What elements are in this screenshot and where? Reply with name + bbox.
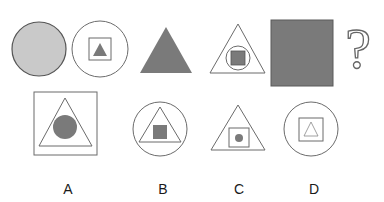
- dark-triangle-shape: [140, 27, 192, 73]
- dark-square-shape: [271, 20, 333, 86]
- sequence-item-5: [271, 20, 333, 86]
- light-circle-shape: [12, 22, 66, 76]
- option-c-figure[interactable]: [211, 105, 265, 150]
- dark-dot-shape: [235, 134, 243, 142]
- sequence-item-1: [12, 22, 66, 76]
- sequence-item-4: [210, 24, 265, 73]
- option-d-figure[interactable]: [284, 102, 338, 156]
- dark-circle-shape: [53, 115, 77, 139]
- option-d-label[interactable]: D: [304, 181, 324, 197]
- puzzle-figure: [0, 0, 384, 202]
- dark-square-shape: [153, 125, 167, 139]
- option-a-figure[interactable]: [34, 92, 97, 155]
- sequence-item-2: [72, 21, 128, 77]
- option-b-figure[interactable]: [133, 102, 187, 156]
- option-c-label[interactable]: C: [229, 181, 249, 197]
- option-b-label[interactable]: B: [153, 181, 173, 197]
- sequence-item-3: [140, 27, 192, 73]
- option-a-label[interactable]: A: [58, 181, 78, 197]
- dark-square-shape: [231, 51, 245, 65]
- question-mark-icon: ?: [338, 18, 378, 80]
